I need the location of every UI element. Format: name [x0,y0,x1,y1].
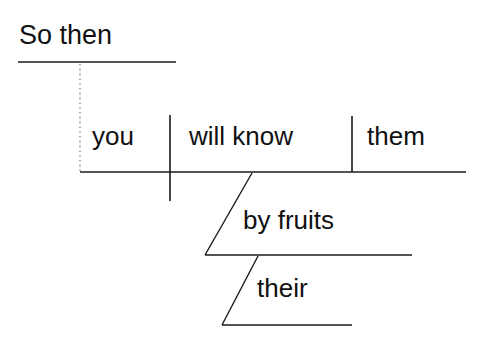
diagram-lines-layer [0,0,478,344]
prepositional-phrase-label: by fruits [243,207,334,233]
possessive-modifier-label: their [257,275,308,301]
sentence-diagram-canvas: So then you will know them by fruits the… [0,0,478,344]
verb-label: will know [189,123,293,149]
direct-object-label: them [367,123,425,149]
introductory-phrase-label: So then [19,22,112,49]
possessive-slant-line [222,256,258,325]
subject-label: you [92,123,134,149]
